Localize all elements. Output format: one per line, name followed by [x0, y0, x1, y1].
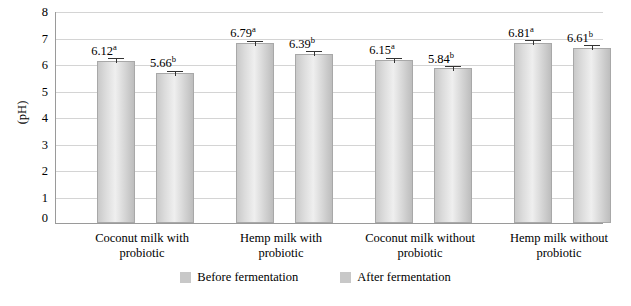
- category-line-1: Hemp milk with: [206, 231, 356, 246]
- bar-coconut-with-before: [97, 61, 135, 223]
- value-label-hemp-without-after: 6.61b: [550, 29, 610, 46]
- y-tick-5: 5: [8, 86, 48, 98]
- bar-coconut-without-before: [375, 60, 413, 223]
- value-label-hemp-without-before: 6.81a: [491, 24, 551, 41]
- category-line-2: probiotic: [206, 246, 356, 261]
- errorbar-stem-3: [255, 42, 256, 46]
- legend-item-after-fermentation: After fermentation: [340, 270, 450, 285]
- category-line-1: Hemp milk without: [484, 231, 631, 246]
- y-tick-7: 7: [8, 33, 48, 45]
- legend-label-after-fermentation: After fermentation: [357, 270, 450, 285]
- errorbar-stem-5: [394, 59, 395, 63]
- errorbar-stem-7: [533, 41, 534, 45]
- errorbar-stem-4: [314, 52, 315, 56]
- value-label-coconut-without-before: 6.15a: [352, 41, 412, 58]
- errorbar-stem-6: [453, 67, 454, 71]
- y-tick-3: 3: [8, 139, 48, 151]
- value-label-hemp-with-before: 6.79a: [213, 24, 273, 41]
- category-label-hemp-with-probiotic: Hemp milk with probiotic: [206, 231, 356, 261]
- category-line-2: probiotic: [67, 246, 217, 261]
- y-tick-8: 8: [8, 6, 48, 18]
- category-label-coconut-with-probiotic: Coconut milk with probiotic: [67, 231, 217, 261]
- gridline-8: [56, 12, 603, 13]
- chart-legend: Before fermentation After fermentation: [0, 270, 631, 285]
- value-label-coconut-without-after: 5.84b: [411, 50, 471, 67]
- y-tick-0: 0: [8, 212, 48, 224]
- legend-swatch-icon: [340, 272, 351, 283]
- y-tick-4: 4: [8, 112, 48, 124]
- legend-item-before-fermentation: Before fermentation: [180, 270, 298, 285]
- bar-hemp-with-before: [236, 43, 274, 223]
- category-label-hemp-without-probiotic: Hemp milk without probiotic: [484, 231, 631, 261]
- category-line-1: Coconut milk with: [67, 231, 217, 246]
- errorbar-stem-2: [175, 72, 176, 76]
- legend-swatch-icon: [180, 272, 191, 283]
- legend-label-before-fermentation: Before fermentation: [197, 270, 298, 285]
- category-label-coconut-without-probiotic: Coconut milk without probiotic: [345, 231, 495, 261]
- bar-coconut-with-after: [156, 73, 194, 223]
- y-tick-2: 2: [8, 165, 48, 177]
- category-line-1: Coconut milk without: [345, 231, 495, 246]
- y-tick-6: 6: [8, 59, 48, 71]
- bar-hemp-with-after: [295, 54, 333, 223]
- y-tick-1: 1: [8, 192, 48, 204]
- y-axis-ticks: 8 7 6 5 4 3 2 1 0: [0, 12, 48, 224]
- ph-bar-chart: (pH) 8 7 6 5 4 3 2 1 0: [0, 0, 631, 306]
- category-line-2: probiotic: [345, 246, 495, 261]
- errorbar-stem-1: [116, 59, 117, 63]
- value-label-hemp-with-after: 6.39b: [272, 35, 332, 52]
- errorbar-stem-8: [592, 46, 593, 50]
- bar-coconut-without-after: [434, 68, 472, 223]
- bar-hemp-without-after: [573, 48, 611, 223]
- value-label-coconut-with-after: 5.66b: [133, 54, 193, 71]
- value-label-coconut-with-before: 6.12a: [74, 42, 134, 59]
- category-line-2: probiotic: [484, 246, 631, 261]
- bar-hemp-without-before: [514, 43, 552, 224]
